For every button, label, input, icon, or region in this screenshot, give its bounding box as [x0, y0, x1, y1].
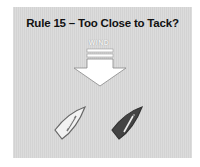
- white-sailboat-icon: [50, 104, 90, 144]
- down-arrow-icon: [70, 48, 130, 88]
- dark-sailboat-icon: [107, 104, 147, 144]
- wind-label: WIND: [84, 39, 114, 46]
- slide-title: Rule 15 – Too Close to Tack?: [13, 17, 192, 29]
